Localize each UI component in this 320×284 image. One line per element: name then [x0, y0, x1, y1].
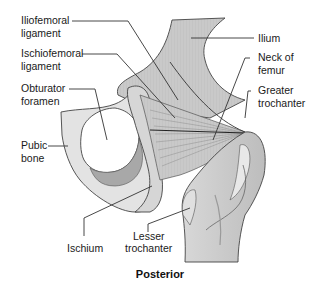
svg-text:Pubic: Pubic	[21, 139, 47, 151]
label-neck-of-femur: Neck of femur	[258, 51, 294, 76]
svg-text:trochanter: trochanter	[125, 242, 173, 254]
hip-joint-diagram: Iliofemoral ligament Ischiofemoral ligam…	[0, 0, 320, 284]
svg-text:Iliofemoral: Iliofemoral	[21, 14, 69, 26]
svg-text:Ischiofemoral: Ischiofemoral	[21, 47, 83, 59]
svg-text:femur: femur	[258, 64, 285, 76]
label-pubic-bone: Pubic bone	[21, 139, 47, 164]
label-ilium: Ilium	[258, 32, 280, 44]
svg-text:foramen: foramen	[21, 95, 60, 107]
label-lesser-trochanter: Lesser trochanter	[125, 230, 173, 254]
label-ischium: Ischium	[67, 242, 103, 254]
svg-text:Lesser: Lesser	[133, 230, 165, 242]
label-ischiofemoral-ligament: Ischiofemoral ligament	[21, 47, 83, 72]
label-greater-trochanter: Greater trochanter	[258, 84, 306, 109]
label-obturator-foramen: Obturator foramen	[21, 82, 66, 107]
svg-text:Ilium: Ilium	[258, 32, 280, 44]
svg-text:Greater: Greater	[258, 84, 294, 96]
svg-text:ligament: ligament	[21, 60, 61, 72]
svg-text:Neck of: Neck of	[258, 51, 294, 63]
svg-text:Ischium: Ischium	[67, 242, 103, 254]
view-title: Posterior	[136, 268, 185, 280]
svg-text:ligament: ligament	[21, 27, 61, 39]
svg-text:Obturator: Obturator	[21, 82, 66, 94]
label-iliofemoral-ligament: Iliofemoral ligament	[21, 14, 69, 39]
leader-greater-trochanter	[245, 91, 251, 118]
svg-text:trochanter: trochanter	[258, 97, 306, 109]
svg-text:bone: bone	[21, 152, 45, 164]
